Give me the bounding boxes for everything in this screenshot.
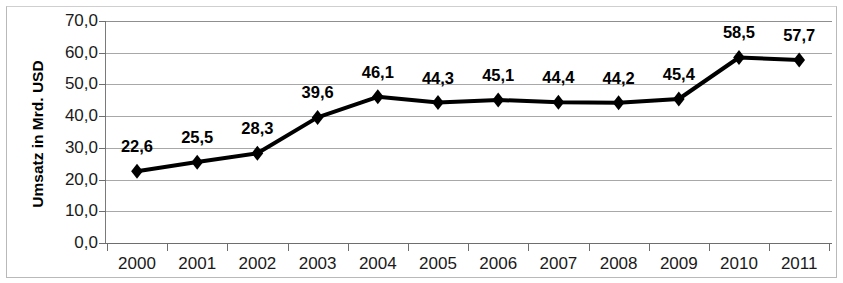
y-tick-mark <box>99 180 106 181</box>
x-tick-mark <box>227 244 228 251</box>
x-tick-mark <box>288 244 289 251</box>
data-point-marker <box>613 95 625 110</box>
data-point-marker <box>312 110 324 125</box>
y-tick-mark <box>99 211 106 212</box>
data-point-marker <box>432 95 444 110</box>
x-tick-mark <box>408 244 409 251</box>
x-tick-mark <box>589 244 590 251</box>
data-point-label: 39,6 <box>278 83 358 102</box>
y-tick-mark <box>99 53 106 54</box>
data-point-marker <box>492 92 504 107</box>
data-point-label: 28,3 <box>217 119 297 138</box>
data-point-marker <box>191 155 203 170</box>
y-tick-mark <box>99 84 106 85</box>
data-point-marker <box>131 164 143 179</box>
x-tick-mark <box>649 244 650 251</box>
y-tick-mark <box>99 243 106 244</box>
data-point-marker <box>553 95 565 110</box>
x-tick-mark <box>468 244 469 251</box>
line-chart: Umsatz in Mrd. USD 0,010,020,030,040,050… <box>0 0 843 283</box>
x-tick-mark <box>709 244 710 251</box>
x-tick-mark <box>829 244 830 251</box>
y-tick-mark <box>99 21 106 22</box>
data-point-marker <box>252 146 264 161</box>
data-point-label: 57,7 <box>759 26 839 45</box>
x-tick-mark <box>528 244 529 251</box>
x-tick-mark <box>167 244 168 251</box>
x-tick-mark <box>348 244 349 251</box>
x-tick-mark <box>769 244 770 251</box>
data-point-marker <box>793 53 805 68</box>
data-point-marker <box>372 89 384 104</box>
data-point-label: 45,4 <box>639 65 719 84</box>
x-tick-mark <box>107 244 108 251</box>
x-tick-label: 2011 <box>759 254 839 274</box>
y-tick-mark <box>99 116 106 117</box>
